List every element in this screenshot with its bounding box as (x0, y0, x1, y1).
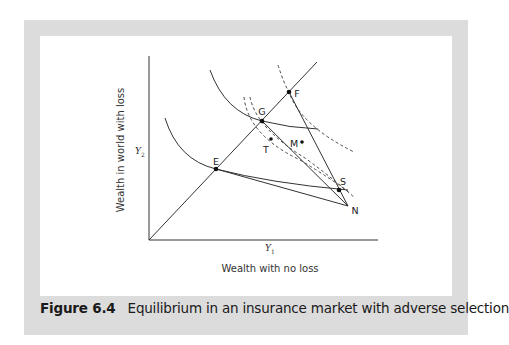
x-tick-sub: 1 (271, 248, 275, 255)
line-E-N (216, 169, 348, 206)
y-axis-label: Wealth in world with loss (115, 88, 126, 213)
label-N: N (351, 205, 358, 216)
figure-number: Figure 6.4 (40, 300, 116, 316)
y-tick-label: Y2 (135, 146, 145, 158)
figure-title: Equilibrium in an insurance market with … (128, 300, 509, 316)
figure-caption: Figure 6.4Equilibrium in an insurance ma… (40, 300, 509, 316)
point-T-marker (269, 137, 273, 141)
x-axis-label: Wealth with no loss (221, 263, 318, 274)
point-M-marker (300, 140, 304, 144)
y-tick-sub: 2 (141, 151, 145, 158)
label-M: M (290, 138, 298, 149)
point-S-marker (337, 188, 342, 193)
label-E: E (213, 156, 219, 167)
point-G-marker (260, 119, 265, 124)
label-S: S (340, 176, 346, 187)
point-E-marker (214, 167, 219, 172)
label-F: F (294, 88, 299, 99)
label-T: T (263, 144, 269, 155)
label-G: G (258, 106, 265, 117)
point-F-marker (287, 90, 292, 95)
x-tick-label: Y1 (265, 243, 275, 255)
